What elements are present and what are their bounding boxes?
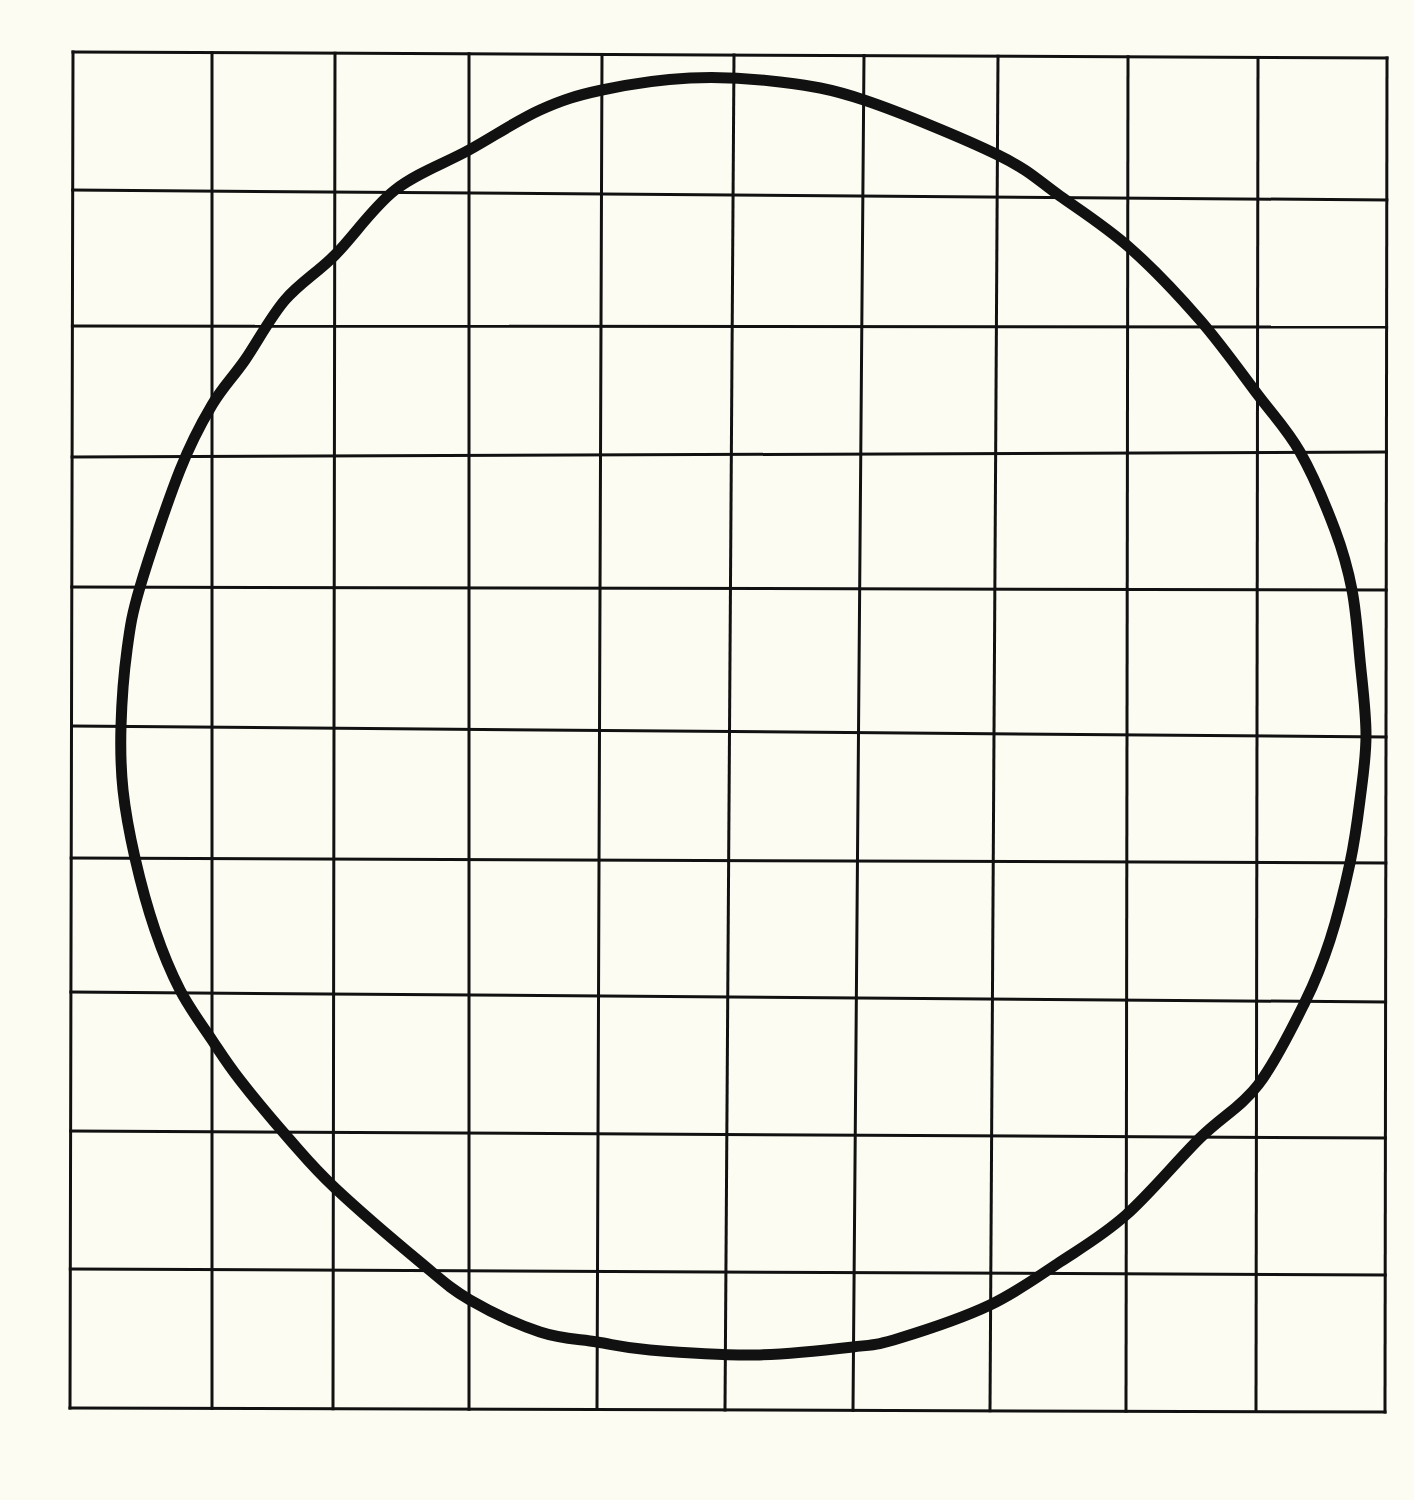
grid-horizontal-line	[72, 452, 1386, 457]
grid-horizontal-line	[72, 587, 1386, 590]
grid-horizontal-line	[73, 190, 1387, 200]
grid-vertical-line	[70, 52, 73, 1408]
grid-vertical-line	[1385, 58, 1387, 1412]
grid-vertical-line	[597, 54, 602, 1409]
diagram-canvas	[0, 0, 1414, 1500]
irregular-circle-shape	[121, 78, 1366, 1356]
grid	[70, 52, 1387, 1412]
grid-horizontal-line	[70, 1269, 1385, 1275]
grid-horizontal-line	[73, 52, 1387, 58]
grid-with-blob-drawing	[0, 0, 1414, 1500]
grid-horizontal-line	[70, 1408, 1385, 1412]
